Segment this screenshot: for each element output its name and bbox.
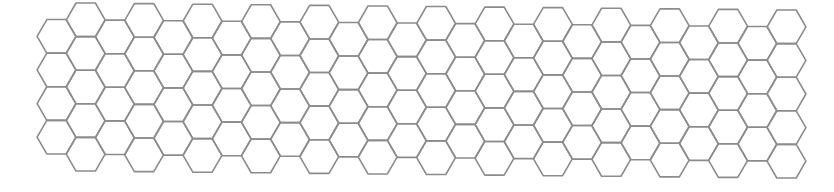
background <box>0 0 834 192</box>
hexagon-grid-canvas <box>0 0 834 192</box>
